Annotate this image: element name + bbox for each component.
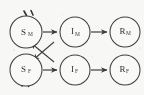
node-s-female-label: S — [21, 64, 26, 74]
node-r-male-subscript: M — [126, 30, 131, 36]
node-s-male[interactable]: S M — [10, 16, 42, 48]
node-i-male-subscript: M — [75, 31, 80, 37]
node-i-male[interactable]: I M — [60, 17, 90, 47]
node-s-male-label: S — [21, 27, 26, 37]
node-r-male[interactable]: R M — [110, 17, 140, 47]
node-r-female[interactable]: R F — [110, 55, 140, 85]
compartmental-flow-diagram: S M I M R M S F I F R — [0, 0, 144, 95]
node-r-female-subscript: F — [126, 68, 129, 74]
node-r-female-label: R — [119, 64, 125, 74]
node-s-male-subscript: M — [28, 31, 33, 37]
node-s-female[interactable]: S F — [10, 54, 42, 86]
node-i-female-subscript: F — [75, 68, 78, 74]
node-i-female-label: I — [71, 64, 74, 74]
node-i-male-label: I — [71, 26, 74, 36]
diagram-canvas: S M I M R M S F I F R — [0, 0, 144, 95]
external-input-sm — [24, 11, 33, 16]
node-i-female[interactable]: I F — [60, 55, 90, 85]
node-s-female-subscript: F — [28, 68, 31, 74]
node-r-male-label: R — [119, 26, 125, 36]
